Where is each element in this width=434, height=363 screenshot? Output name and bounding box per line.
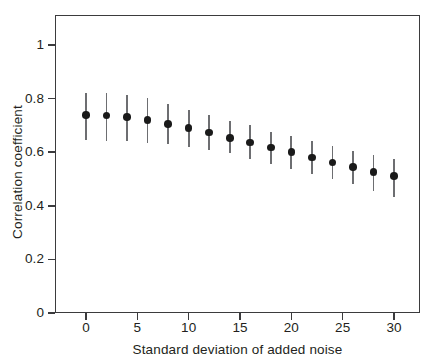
y-axis-tick (48, 151, 55, 153)
x-axis-tick-label: 20 (271, 321, 311, 335)
x-axis-tick (342, 313, 344, 320)
y-axis-tick (48, 44, 55, 46)
x-axis-tick (291, 313, 293, 320)
x-axis-tick (239, 313, 241, 320)
x-axis-tick-label: 15 (220, 321, 260, 335)
y-axis-title-wrapper: Correlation coefficient (10, 23, 26, 321)
x-axis-tick (137, 313, 139, 320)
chart-figure: 00.20.40.60.81051015202530 Standard devi… (0, 0, 434, 363)
x-axis-tick-label: 0 (66, 321, 106, 335)
y-axis-title: Correlation coefficient (10, 105, 26, 239)
x-axis-tick-label: 5 (117, 321, 157, 335)
y-axis-tick (48, 312, 55, 314)
y-axis-tick (48, 259, 55, 261)
x-axis-tick (85, 313, 87, 320)
x-axis-tick-label: 25 (323, 321, 363, 335)
y-axis-tick (48, 98, 55, 100)
x-axis-tick (188, 313, 190, 320)
x-axis-tick (393, 313, 395, 320)
y-axis-tick (48, 205, 55, 207)
x-axis-title: Standard deviation of added noise (55, 342, 420, 357)
x-axis-tick-label: 30 (374, 321, 414, 335)
x-axis-tick-label: 10 (169, 321, 209, 335)
plot-area-frame (55, 15, 420, 313)
